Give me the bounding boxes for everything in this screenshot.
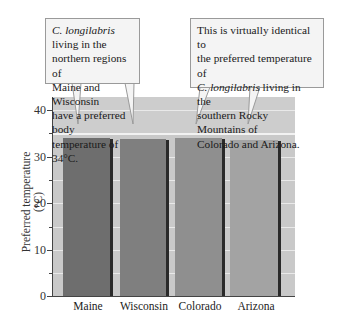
callout-left-line-1: C. longilabris living in the — [52, 23, 133, 51]
species-name: C. longilabris — [197, 81, 260, 93]
callout-southern: This is virtually identical to the prefe… — [190, 18, 324, 88]
callout-right-line-2: the preferred temperature of — [197, 51, 317, 79]
callout-northern: C. longilabris living in the northern re… — [45, 18, 140, 84]
callout-right-line-1: This is virtually identical to — [197, 23, 317, 51]
callout-left-line-5: temperature of 34°C. — [52, 137, 133, 165]
callout-right-line-4: southern Rocky Mountains of — [197, 108, 317, 136]
callout-left-line-4: have a preferred body — [52, 108, 133, 136]
callout-left-line-1-rest: living in the — [52, 38, 107, 50]
callout-right-line-5: Colorado and Arizona. — [197, 137, 317, 151]
callout-left-line-3: Maine and Wisconsin — [52, 80, 133, 108]
species-name: C. longilabris — [52, 24, 115, 36]
callout-left-line-2: northern regions of — [52, 51, 133, 79]
callout-right-line-3: C. longilabris living in the — [197, 80, 317, 108]
